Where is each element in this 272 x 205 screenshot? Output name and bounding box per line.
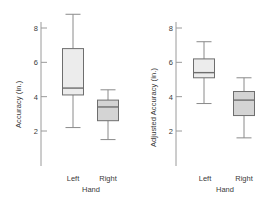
y-tick-label: 6: [24, 58, 38, 67]
y-tick-label: 2: [159, 127, 173, 136]
box-plot-right: [234, 78, 255, 138]
y-tick-label: 8: [24, 24, 38, 33]
y-tick-label: 4: [159, 93, 173, 102]
y-tick-label: 8: [159, 24, 173, 33]
box-plot-left: [63, 14, 84, 127]
x-category-label-right: Right: [224, 174, 264, 183]
y-tick-label: 4: [24, 93, 38, 102]
iqr-box: [234, 92, 255, 116]
y-tick-label: 6: [159, 58, 173, 67]
x-category-label-right: Right: [88, 174, 128, 183]
iqr-box: [194, 59, 215, 78]
boxplot-figure: Accuracy (in.) 8 6 4 2 Left Right Hand A…: [0, 0, 272, 205]
iqr-box: [98, 100, 119, 121]
box-plot-right: [98, 90, 119, 140]
chart-panel-adjusted-accuracy: Adjusted Accuracy (in.) 8 6 4 2 Left Rig…: [136, 0, 272, 205]
y-tick-label: 2: [24, 127, 38, 136]
x-category-label-left: Left: [185, 174, 225, 183]
chart-panel-accuracy: Accuracy (in.) 8 6 4 2 Left Right Hand: [0, 0, 136, 205]
box-plot-left: [194, 42, 215, 104]
x-category-label-left: Left: [53, 174, 93, 183]
y-axis-title-adjusted-accuracy: Adjusted Accuracy (in.): [149, 68, 158, 147]
x-axis-title-hand: Hand: [61, 185, 121, 194]
y-axis-title-accuracy: Accuracy (in.): [14, 81, 23, 128]
x-axis-title-hand: Hand: [195, 185, 255, 194]
